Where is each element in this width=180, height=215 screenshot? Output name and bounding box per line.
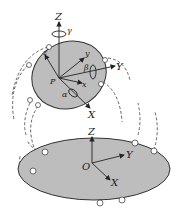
alpha-label: α <box>62 90 68 99</box>
joint <box>99 82 104 87</box>
joint <box>36 103 41 108</box>
local-x-label: x <box>82 80 87 89</box>
global-y-label: Y <box>116 61 124 72</box>
joint <box>97 200 103 206</box>
joint <box>42 149 48 155</box>
base-z-label: Z <box>87 126 96 137</box>
beta-label: β <box>83 63 89 72</box>
gamma-label: γ <box>67 26 72 35</box>
global-x-label: X <box>87 109 96 120</box>
joint <box>30 168 36 174</box>
stewart-platform-diagram: Z Y X P z y x γ β α Z Y X O <box>0 0 180 215</box>
origin-o-label: O <box>82 161 90 172</box>
local-y-label: y <box>84 49 90 58</box>
moving-platform: Z Y X P z y x γ β α <box>21 11 124 121</box>
base-platform: Z Y X O <box>18 126 170 206</box>
joint <box>103 58 108 63</box>
local-z-label: z <box>42 48 48 57</box>
joint <box>151 148 157 154</box>
joint <box>47 45 52 50</box>
base-x-label: X <box>110 177 119 188</box>
global-z-label: Z <box>54 11 63 22</box>
joint <box>132 140 138 146</box>
joint <box>28 98 33 103</box>
origin-p-label: P <box>49 77 56 86</box>
joint <box>27 63 32 68</box>
joint <box>119 197 125 203</box>
